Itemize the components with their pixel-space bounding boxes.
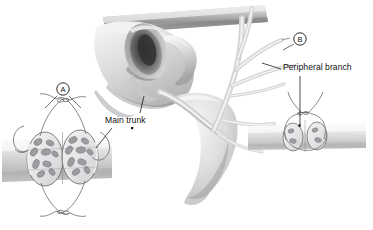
inset-a-right-stump: [62, 130, 98, 184]
inset-a-marker: A: [57, 83, 69, 95]
inset-b-marker: B: [294, 33, 306, 45]
inset-b-marker-letter: B: [298, 35, 303, 44]
facial-nerve-repair-illustration: A: [0, 0, 373, 230]
label-main-trunk: Main trunk: [105, 115, 146, 125]
inset-a-left-stump: [27, 132, 63, 186]
inset-b-left-stump: [283, 123, 303, 151]
label-peripheral-branch: Peripheral branch: [283, 62, 352, 72]
inset-b-right-stump: [307, 122, 327, 150]
inset-a-marker-letter: A: [61, 85, 66, 94]
figure-background: [0, 0, 373, 230]
